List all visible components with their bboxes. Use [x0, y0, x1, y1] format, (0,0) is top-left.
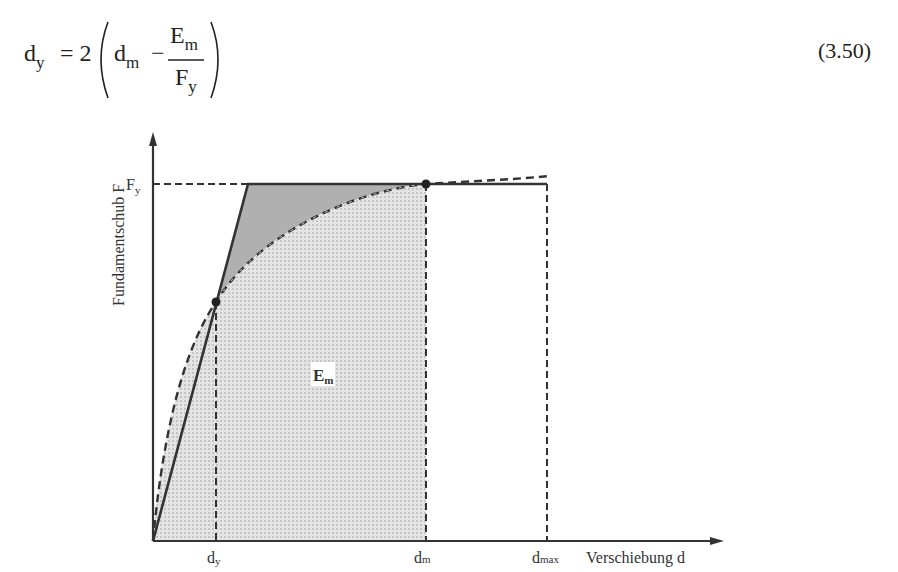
- dm-label: dm: [414, 549, 431, 566]
- x-axis-title: Verschiebung d: [586, 549, 685, 567]
- dmax-label: dmax: [532, 549, 559, 566]
- y-axis-arrow-icon: [149, 132, 157, 146]
- dy-label: dy: [207, 549, 221, 567]
- y-axis-title: Fundamentschub F: [110, 184, 127, 306]
- em-area: [153, 184, 426, 541]
- max-point: [422, 180, 431, 189]
- x-axis-arrow-icon: [710, 537, 724, 545]
- pushover-chart: Em Fy dy dm dmax Verschiebung d Fundamen…: [0, 0, 898, 572]
- yield-point: [212, 298, 221, 307]
- fy-label: Fy: [126, 176, 141, 196]
